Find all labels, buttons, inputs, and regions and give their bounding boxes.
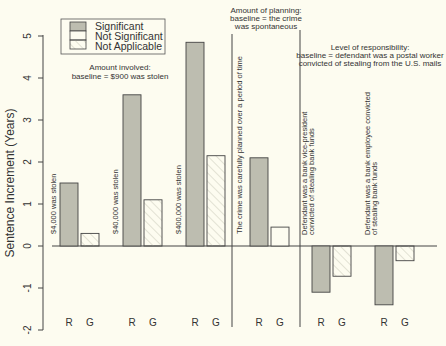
group-label-planned: The crime was carefully planned over a p… [235,56,244,234]
x-tick-label: R [65,317,72,328]
group-label-4000: $4,000 was stolen [49,174,58,234]
bar-g [81,233,99,246]
legend-swatch-not-applicable [70,40,86,49]
bar-g [144,200,162,246]
bar-g [396,246,414,261]
y-tick-label: -1 [22,283,33,292]
x-tick-label: G [149,317,157,328]
y-tick-label: 3 [22,117,33,123]
x-tick-label: G [338,317,346,328]
bar-r [186,42,204,246]
y-tick-label: 5 [22,33,33,39]
bar-r [375,246,393,305]
legend-swatch-significant [70,22,86,31]
section-planning-header: Amount of planning: baseline = the crime… [230,6,302,31]
svg-text:convicted of stealing from the: convicted of stealing from the U.S. mail… [299,59,442,68]
svg-text:was spontaneous: was spontaneous [234,22,297,31]
group-label-40000: $40,000 was stolen [111,169,120,234]
group-label-bank-employee: Defendant was a bank employee convicted … [363,90,379,235]
x-tick-labels: RGRGRGRGRGRG [65,317,409,328]
bar-g [333,246,351,276]
bar-r [123,95,141,246]
y-tick-label: 4 [22,75,33,81]
y-tick-label: 0 [22,243,33,249]
svg-text:baseline = $900 was stolen: baseline = $900 was stolen [72,72,169,81]
section-responsibility-header: Level of responsibility: baseline = defe… [296,43,444,68]
group-label-vice-president: Defendant was a bank vice-president conv… [300,110,316,236]
legend-label-not-applicable: Not Applicable [95,40,162,52]
y-axis: -2-1012345 Sentence Increment (Years) [3,33,43,335]
chart: -2-1012345 Sentence Increment (Years) Si… [0,0,446,346]
x-tick-label: G [86,317,94,328]
bar-g [207,156,225,246]
legend-swatch-not-significant [70,31,86,40]
bar-g [271,227,289,246]
x-tick-label: R [191,317,198,328]
x-tick-label: G [276,317,284,328]
x-tick-label: R [317,317,324,328]
y-axis-label: Sentence Increment (Years) [3,109,17,258]
group-label-400000: $400,000 was stolen [174,165,183,234]
svg-text:Amount involved:: Amount involved: [89,63,150,72]
y-tick-label: 1 [22,201,33,207]
bar-r [312,246,330,292]
x-tick-label: R [255,317,262,328]
bar-r [250,158,268,246]
x-tick-label: G [401,317,409,328]
section-amount-header: Amount involved: baseline = $900 was sto… [72,63,169,81]
x-tick-label: R [128,317,135,328]
y-tick-label: 2 [22,159,33,165]
bar-r [60,183,78,246]
x-tick-label: G [212,317,220,328]
x-tick-label: R [380,317,387,328]
y-tick-label: -2 [22,325,33,334]
legend: Significant Not Significant Not Applicab… [61,19,165,54]
